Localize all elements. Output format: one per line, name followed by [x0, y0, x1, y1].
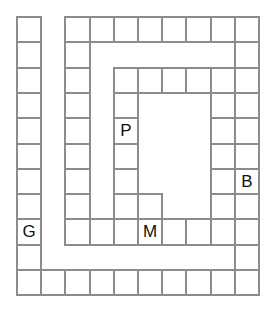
board-cell-m: M — [137, 218, 163, 246]
board-cell — [16, 16, 42, 43]
board-cell — [16, 117, 42, 145]
board-cell — [234, 269, 260, 296]
board-cell — [113, 193, 139, 220]
board-cell — [64, 168, 91, 195]
board-cell — [113, 92, 139, 119]
board-cell — [64, 117, 91, 145]
board-cell — [137, 16, 163, 43]
cell-label: P — [120, 121, 131, 141]
board-cell — [234, 117, 260, 145]
board-cell — [210, 143, 236, 170]
board-cell-b: B — [234, 168, 260, 195]
spiral-game-board: GBMP — [0, 0, 272, 318]
board-cell — [16, 244, 42, 271]
board-cell — [137, 269, 163, 296]
board-cell — [137, 193, 163, 220]
board-cell — [64, 269, 91, 296]
board-cell — [64, 92, 91, 119]
board-cell — [234, 244, 260, 271]
board-cell — [113, 16, 139, 43]
board-cell — [113, 67, 139, 94]
board-cell-g: G — [16, 218, 42, 246]
board-cell — [161, 218, 187, 246]
board-cell — [16, 168, 42, 195]
board-cell — [210, 269, 236, 296]
board-cell — [234, 143, 260, 170]
board-cell — [234, 193, 260, 220]
board-cell — [64, 193, 91, 220]
board-cell — [234, 218, 260, 246]
board-cell — [64, 16, 91, 43]
board-cell — [113, 143, 139, 170]
board-cell — [89, 218, 115, 246]
board-cell — [185, 218, 212, 246]
board-cell — [210, 218, 236, 246]
board-cell — [210, 193, 236, 220]
board-cell — [64, 143, 91, 170]
board-cell — [234, 92, 260, 119]
board-cell — [89, 16, 115, 43]
board-cell — [64, 41, 91, 69]
cell-label: G — [22, 222, 35, 242]
board-cell — [161, 16, 187, 43]
board-cell — [113, 269, 139, 296]
board-cell — [210, 92, 236, 119]
board-cell — [16, 92, 42, 119]
board-cell — [16, 269, 42, 296]
board-cell — [210, 168, 236, 195]
board-cell — [161, 269, 187, 296]
board-cell — [113, 168, 139, 195]
board-cell — [137, 67, 163, 94]
board-cell — [40, 269, 66, 296]
board-cell — [113, 218, 139, 246]
board-cell-p: P — [113, 117, 139, 145]
cell-label: B — [241, 172, 252, 192]
board-cell — [64, 218, 91, 246]
board-cell — [16, 193, 42, 220]
board-cell — [234, 41, 260, 69]
board-cell — [16, 143, 42, 170]
board-cell — [16, 41, 42, 69]
board-cell — [89, 269, 115, 296]
board-cell — [210, 16, 236, 43]
board-cell — [210, 67, 236, 94]
board-cell — [16, 67, 42, 94]
board-cell — [185, 67, 212, 94]
board-cell — [234, 67, 260, 94]
board-cell — [234, 16, 260, 43]
board-cell — [210, 117, 236, 145]
board-cell — [64, 67, 91, 94]
board-cell — [185, 16, 212, 43]
cell-label: M — [143, 222, 157, 242]
board-cell — [185, 269, 212, 296]
board-cell — [161, 67, 187, 94]
